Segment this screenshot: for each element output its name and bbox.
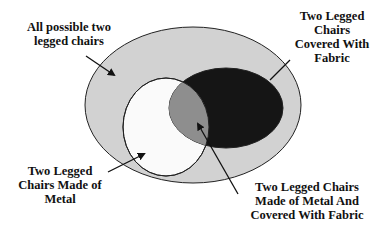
- metal-label: Two Legged Chairs Made of Metal: [10, 164, 110, 206]
- intersection-label: Two Legged Chairs Made of Metal And Cove…: [232, 180, 382, 222]
- fabric-label: Two Legged Chairs Covered With Fabric: [282, 9, 382, 65]
- universe-label: All possible two legged chairs: [14, 20, 124, 48]
